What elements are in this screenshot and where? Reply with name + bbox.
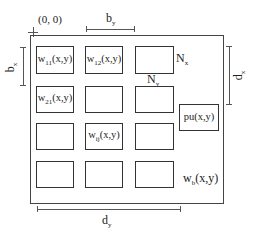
box-wij: wij(x,y) <box>85 123 123 150</box>
box-r4c2 <box>85 161 123 188</box>
background-label-wb: wb(x,y) <box>183 172 218 187</box>
box-r2c3 <box>135 86 174 113</box>
n-x-label: Nx <box>176 52 188 67</box>
box-w12: w12(x,y) <box>85 46 123 74</box>
b-x-label: b <box>3 66 17 72</box>
box-r3c3 <box>135 123 174 150</box>
origin-label: (0, 0) <box>38 14 62 25</box>
d-x-label: d <box>231 74 245 80</box>
box-r1c3 <box>135 46 174 74</box>
box-pu: pu(x,y) <box>179 104 219 131</box>
box-w21: w21(x,y) <box>36 86 74 113</box>
box-r4c1 <box>36 161 74 188</box>
box-r3c1 <box>36 123 74 150</box>
box-r2c2 <box>85 86 123 113</box>
box-r4c3 <box>135 161 174 188</box>
box-w11: w11(x,y) <box>36 46 74 74</box>
